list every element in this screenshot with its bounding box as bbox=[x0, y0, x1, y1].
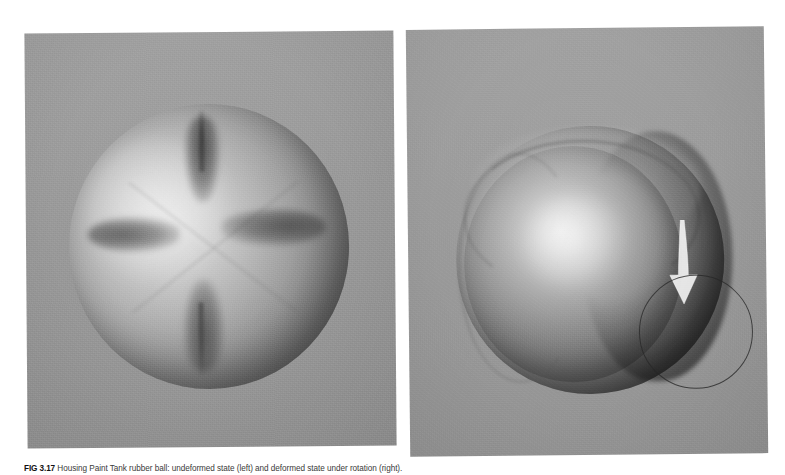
band-shadow-lobe bbox=[581, 130, 734, 382]
figure-caption-text: Housing Paint Tank rubber ball: undeform… bbox=[57, 464, 402, 473]
figure-page: FIG 3.17 Housing Paint Tank rubber ball:… bbox=[0, 0, 785, 475]
undeformed-sphere bbox=[68, 103, 350, 390]
figure-number-label: FIG 3.17 bbox=[24, 464, 55, 473]
undeformed-sphere-panel bbox=[24, 31, 396, 449]
figure-caption: FIG 3.17 Housing Paint Tank rubber ball:… bbox=[24, 463, 764, 474]
deformed-sphere-panel bbox=[406, 26, 768, 457]
